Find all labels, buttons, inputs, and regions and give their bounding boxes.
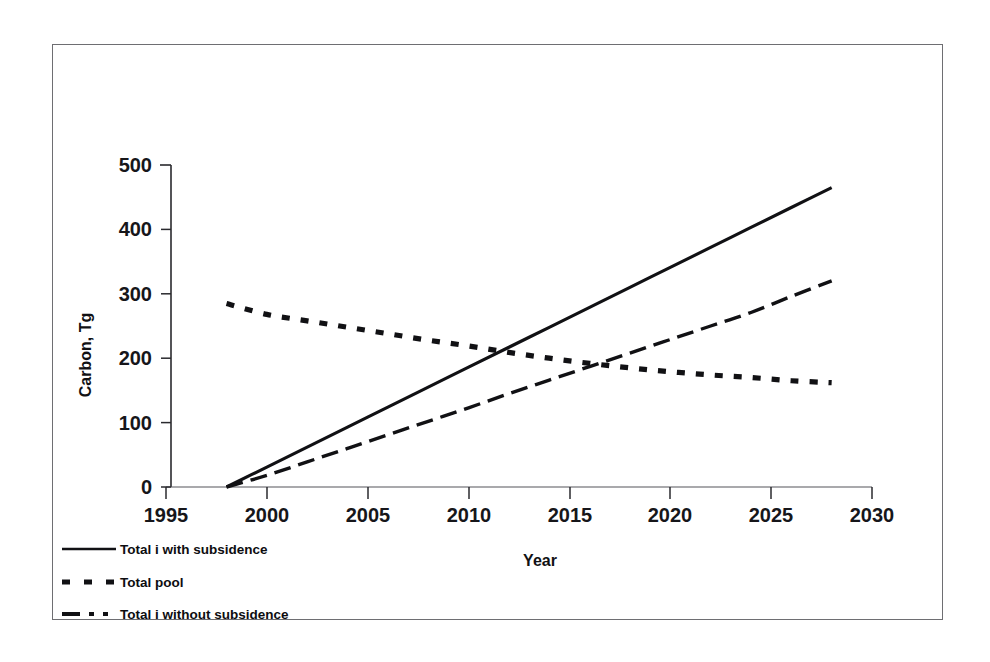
x-axis-ticks — [166, 487, 872, 499]
y-tick-label-200: 200 — [119, 347, 152, 369]
chart-legend: Total i with subsidence Total pool Total… — [62, 542, 289, 622]
x-tick-label-2025: 2025 — [749, 504, 794, 526]
y-axis-ticks — [161, 229, 171, 487]
x-axis-title: Year — [523, 552, 557, 569]
y-tick-label-400: 400 — [119, 218, 152, 240]
series-total-i-without-subsidence — [227, 281, 832, 487]
y-tick-label-300: 300 — [119, 283, 152, 305]
legend-label-2: Total i without subsidence — [120, 607, 289, 622]
x-tick-label-2005: 2005 — [346, 504, 391, 526]
legend-label-0: Total i with subsidence — [120, 542, 268, 557]
y-tick-label-100: 100 — [119, 412, 152, 434]
legend-label-1: Total pool — [120, 575, 184, 590]
line-chart: 500 400 300 200 100 0 1995 2000 2005 201… — [0, 0, 990, 662]
x-tick-label-2020: 2020 — [648, 504, 693, 526]
series-total-pool — [227, 303, 832, 382]
y-axis-title: Carbon, Tg — [77, 313, 94, 397]
x-tick-label-2010: 2010 — [447, 504, 492, 526]
figure-page: 500 400 300 200 100 0 1995 2000 2005 201… — [0, 0, 990, 662]
series-total-i-with-subsidence-line — [227, 188, 832, 487]
x-tick-label-1995: 1995 — [144, 504, 189, 526]
x-tick-label-2000: 2000 — [245, 504, 290, 526]
y-tick-label-0: 0 — [141, 476, 152, 498]
y-tick-label-500: 500 — [119, 154, 152, 176]
x-tick-label-2015: 2015 — [548, 504, 593, 526]
x-tick-label-2030: 2030 — [850, 504, 895, 526]
